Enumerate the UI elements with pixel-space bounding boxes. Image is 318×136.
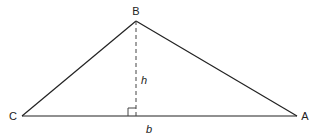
side-ba [136, 21, 297, 116]
vertex-label-a: A [301, 110, 309, 122]
right-angle-marker [128, 108, 136, 116]
base-label: b [146, 123, 152, 135]
triangle-diagram: B C A h b [0, 0, 318, 136]
height-label: h [141, 74, 147, 86]
side-cb [22, 21, 136, 116]
vertex-label-c: C [9, 110, 17, 122]
vertex-label-b: B [132, 5, 139, 17]
